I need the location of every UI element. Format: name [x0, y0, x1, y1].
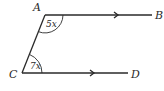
- point-label-c: C: [9, 68, 18, 81]
- point-label-b: B: [154, 9, 163, 22]
- angle-label-c: 7x: [30, 61, 41, 71]
- angle-label-a: 5x: [46, 19, 57, 29]
- diagram: A B C D 5x 7x: [0, 0, 164, 91]
- point-label-a: A: [32, 1, 41, 14]
- point-label-d: D: [130, 68, 140, 81]
